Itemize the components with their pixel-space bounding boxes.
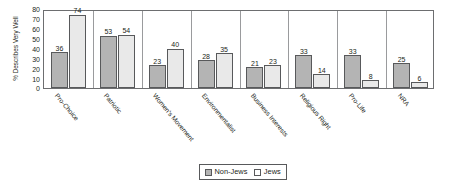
x-axis-label-pro-choice: Pro-Choice [54,92,81,122]
legend-label-non-jews: Non-Jews [215,168,248,176]
legend-swatch-icon-non-jews [205,169,212,176]
x-axis-label-nra: NRA [396,92,410,107]
x-axis-label-religious-right: Religious Right [298,92,332,130]
legend-item-jews: Jews [254,168,280,176]
bar-chart: % Describes Very Well 80706050403020100 … [0,0,451,191]
legend-item-non-jews: Non-Jews [205,168,247,176]
x-axis-tick-labels: Pro-ChoicePatrioticWomen's MovementEnvir… [0,0,451,191]
x-axis-label-business-interests: Business Interests [250,92,290,138]
legend-swatch-icon-jews [254,169,261,176]
x-axis-label-pro-life: Pro-Life [347,92,367,114]
x-axis-label-patriotic: Patriotic [103,92,124,115]
x-axis-label-environmentalist: Environmentalist [201,92,238,134]
legend-label-jews: Jews [264,168,281,176]
x-axis-label-women-s-movement: Women's Movement [152,92,196,142]
chart-legend: Non-Jews Jews [199,164,287,180]
